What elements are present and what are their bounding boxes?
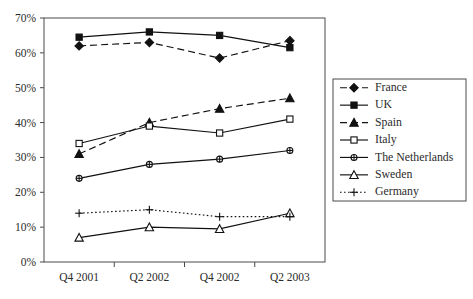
legend-label: Germany [375,184,419,198]
data-point-marker [76,34,82,40]
data-point-marker [75,42,83,50]
series-line [79,210,290,217]
series-the-netherlands [76,147,293,181]
series-uk [76,29,293,51]
legend-label: Sweden [375,167,412,181]
legend-label: Italy [375,132,397,146]
x-tick-label: Q4 2001 [59,271,99,283]
y-tick-label: 0% [21,256,37,268]
data-point-marker [217,130,223,136]
data-point-marker [215,54,223,62]
plot-area-border [44,18,325,262]
data-point-marker [351,102,357,108]
legend-label: UK [375,97,393,111]
series-line [79,98,290,154]
data-point-marker [215,104,223,112]
y-tick-label: 70% [15,12,37,24]
series-line [79,32,290,48]
data-point-marker [351,137,357,143]
data-point-marker [286,94,294,102]
legend-label: Spain [375,115,402,129]
x-tick-label: Q2 2003 [270,271,310,283]
legend: FranceUKSpainItalyThe NetherlandsSwedenG… [333,79,466,201]
x-axis: Q4 2001Q2 2002Q4 2002Q2 2003 [59,262,310,283]
y-tick-label: 40% [15,117,37,129]
y-tick-label: 60% [15,47,37,59]
series-line [79,213,290,237]
data-point-marker [286,36,294,44]
y-axis: 0%10%20%30%40%50%60%70% [15,12,44,268]
data-point-marker [146,29,152,35]
series-layer [75,29,294,241]
legend-label: France [375,80,407,94]
data-point-marker [145,38,153,46]
series-spain [75,94,294,158]
series-line [79,150,290,178]
data-point-marker [146,123,152,129]
series-sweden [75,209,294,241]
x-tick-label: Q4 2002 [200,271,240,283]
data-point-marker [217,32,223,38]
line-chart: 0%10%20%30%40%50%60%70%Q4 2001Q2 2002Q4 … [0,0,473,299]
series-france [75,36,294,62]
legend-label: The Netherlands [375,150,454,164]
y-tick-label: 20% [15,186,37,198]
series-italy [76,116,293,147]
y-tick-label: 30% [15,151,37,163]
chart-canvas: 0%10%20%30%40%50%60%70%Q4 2001Q2 2002Q4 … [0,0,473,299]
data-point-marker [287,116,293,122]
data-point-marker [75,150,83,158]
data-point-marker [287,45,293,51]
series-germany [75,206,294,221]
plot-frame [44,18,325,262]
y-tick-label: 50% [15,82,37,94]
data-point-marker [76,140,82,146]
y-tick-label: 10% [15,221,37,233]
x-tick-label: Q2 2002 [129,271,169,283]
series-line [79,41,290,58]
